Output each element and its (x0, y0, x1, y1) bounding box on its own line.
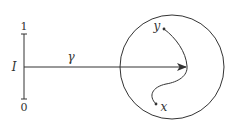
point-x-dot (155, 103, 158, 106)
diagram-canvas: 1 0 I γ y x (0, 0, 230, 135)
interval-top-label: 1 (21, 20, 28, 33)
point-y-dot (163, 28, 166, 31)
gamma-map: γ (24, 50, 186, 67)
point-x-label: x (161, 100, 168, 114)
point-y-label: y (153, 19, 161, 33)
interval-name-label: I (11, 60, 17, 74)
diagram: 1 0 I γ y x (0, 0, 230, 135)
interval-bottom-label: 0 (21, 101, 28, 114)
gamma-label: γ (67, 50, 75, 64)
